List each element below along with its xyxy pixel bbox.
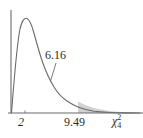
chi-square-density-curve — [12, 18, 141, 113]
annotation-label-6.16: 6.16 — [45, 49, 66, 61]
chi-square-distribution-figure: 2 9.49 6.16 χ24 — [0, 0, 143, 138]
x-tick-label-2: 2 — [18, 116, 24, 128]
x-axis-title-chi-squared-4: χ24 — [112, 115, 121, 127]
x-tick-label-9.49: 9.49 — [64, 116, 85, 128]
upper-tail-shaded-region — [78, 102, 138, 114]
chi-subscript-df: 4 — [117, 121, 121, 130]
annotation-pointer-line — [51, 63, 57, 81]
